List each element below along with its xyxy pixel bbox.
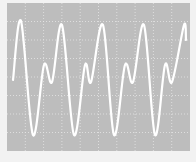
waveform-trace bbox=[13, 20, 186, 136]
oscilloscope-frame bbox=[0, 0, 196, 162]
waveform-plot bbox=[0, 0, 196, 162]
